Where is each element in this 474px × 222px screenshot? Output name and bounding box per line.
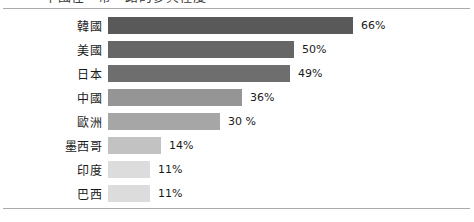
table-row: 美國 50%: [0, 37, 474, 61]
table-row: 中國 36%: [0, 85, 474, 109]
bar-chart: 中國在一帶一路的參與程度 韓國 66% 美國 50% 日本 49%: [0, 0, 474, 222]
bar-category-label: 美國: [0, 41, 108, 58]
bar: [108, 65, 290, 82]
bar-category-label: 印度: [0, 161, 108, 178]
bar: [108, 185, 150, 202]
bar-value-label: 11%: [158, 187, 182, 200]
bar-track: 11%: [108, 181, 474, 205]
bar-value-label: 30 %: [228, 115, 256, 128]
bar: [108, 89, 242, 106]
table-row: 巴西 11%: [0, 181, 474, 205]
bar-track: 14%: [108, 133, 474, 157]
bar-value-label: 50%: [302, 43, 326, 56]
chart-title-clipped: 中國在一帶一路的參與程度: [0, 0, 474, 5]
chart-title: 中國在一帶一路的參與程度: [44, 0, 206, 4]
bar-category-label: 日本: [0, 65, 108, 82]
bar-track: 49%: [108, 61, 474, 85]
bar: [108, 137, 161, 154]
bar-category-label: 墨西哥: [0, 137, 108, 154]
bar-track: 11%: [108, 157, 474, 181]
bar-value-label: 11%: [158, 163, 182, 176]
bar: [108, 161, 150, 178]
bar: [108, 41, 294, 58]
table-row: 墨西哥 14%: [0, 133, 474, 157]
divider-top: [3, 8, 470, 9]
bar: [108, 17, 353, 34]
table-row: 歐洲 30 %: [0, 109, 474, 133]
bar-category-label: 巴西: [0, 185, 108, 202]
bar-value-label: 14%: [169, 139, 193, 152]
table-row: 韓國 66%: [0, 13, 474, 37]
bar-value-label: 36%: [250, 91, 274, 104]
bar: [108, 113, 220, 130]
divider-bottom: [3, 208, 470, 209]
table-row: 日本 49%: [0, 61, 474, 85]
bar-track: 36%: [108, 85, 474, 109]
bar-track: 30 %: [108, 109, 474, 133]
bar-category-label: 歐洲: [0, 113, 108, 130]
table-row: 印度 11%: [0, 157, 474, 181]
bar-rows: 韓國 66% 美國 50% 日本 49% 中國 36%: [0, 13, 474, 205]
bar-value-label: 49%: [298, 67, 322, 80]
bar-category-label: 韓國: [0, 17, 108, 34]
bar-value-label: 66%: [361, 19, 385, 32]
bar-track: 66%: [108, 13, 474, 37]
bar-category-label: 中國: [0, 89, 108, 106]
bar-track: 50%: [108, 37, 474, 61]
